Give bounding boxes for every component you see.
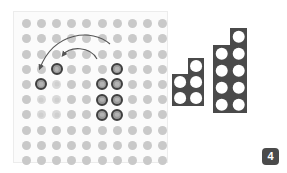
- board-cell-ghost[interactable]: [52, 80, 61, 89]
- board-cell-empty[interactable]: [158, 65, 167, 74]
- board-cell-empty[interactable]: [22, 80, 31, 89]
- board-cell-empty[interactable]: [22, 126, 31, 135]
- tray-shape-cell[interactable]: [172, 90, 188, 106]
- board-cell-empty[interactable]: [37, 50, 46, 59]
- board-cell-empty[interactable]: [128, 126, 137, 135]
- board-cell-empty[interactable]: [67, 95, 76, 104]
- board-cell-empty[interactable]: [98, 34, 107, 43]
- tray-shape-cell[interactable]: [213, 62, 230, 79]
- board-cell-empty[interactable]: [22, 110, 31, 119]
- board-cell-ghost[interactable]: [37, 95, 46, 104]
- board-cell-empty[interactable]: [52, 156, 61, 165]
- board-cell-empty[interactable]: [82, 110, 91, 119]
- board-cell-empty[interactable]: [22, 156, 31, 165]
- board-cell-empty[interactable]: [128, 80, 137, 89]
- board-cell-empty[interactable]: [67, 110, 76, 119]
- board-cell-empty[interactable]: [67, 126, 76, 135]
- board-cell-empty[interactable]: [143, 19, 152, 28]
- board-cell-empty[interactable]: [82, 80, 91, 89]
- tray-shape-cell[interactable]: [172, 74, 188, 90]
- board-cell-empty[interactable]: [52, 126, 61, 135]
- board-cell-filled[interactable]: [35, 78, 47, 90]
- board-cell-empty[interactable]: [128, 65, 137, 74]
- board-cell-empty[interactable]: [22, 65, 31, 74]
- board-cell-empty[interactable]: [158, 34, 167, 43]
- tray-shape-cell[interactable]: [230, 62, 247, 79]
- board-cell-empty[interactable]: [113, 50, 122, 59]
- tray-shape-cell[interactable]: [213, 45, 230, 62]
- board-cell-empty[interactable]: [143, 141, 152, 150]
- board-cell-filled[interactable]: [96, 78, 108, 90]
- board-cell-empty[interactable]: [67, 156, 76, 165]
- board-cell-empty[interactable]: [82, 50, 91, 59]
- board-cell-empty[interactable]: [113, 126, 122, 135]
- board-cell-empty[interactable]: [98, 126, 107, 135]
- board-cell-empty[interactable]: [22, 141, 31, 150]
- board-cell-empty[interactable]: [67, 141, 76, 150]
- board-cell-empty[interactable]: [128, 156, 137, 165]
- tray-shape-cell[interactable]: [188, 90, 204, 106]
- board-cell-empty[interactable]: [113, 141, 122, 150]
- board-cell-empty[interactable]: [143, 156, 152, 165]
- board-cell-empty[interactable]: [158, 110, 167, 119]
- board-cell-empty[interactable]: [22, 95, 31, 104]
- board-cell-empty[interactable]: [128, 95, 137, 104]
- board-cell-empty[interactable]: [143, 34, 152, 43]
- board-cell-empty[interactable]: [113, 156, 122, 165]
- board-cell-empty[interactable]: [37, 65, 46, 74]
- board-cell-empty[interactable]: [98, 50, 107, 59]
- board-cell-empty[interactable]: [52, 34, 61, 43]
- board-cell-empty[interactable]: [98, 19, 107, 28]
- board-cell-filled[interactable]: [51, 63, 63, 75]
- tray-shape-cell[interactable]: [188, 58, 204, 74]
- board-cell-empty[interactable]: [143, 80, 152, 89]
- tray-shape-cell[interactable]: [230, 79, 247, 96]
- board-cell-empty[interactable]: [67, 80, 76, 89]
- puzzle-board-grid[interactable]: [14, 12, 169, 164]
- board-cell-empty[interactable]: [22, 19, 31, 28]
- board-cell-ghost[interactable]: [52, 95, 61, 104]
- board-cell-filled[interactable]: [111, 109, 123, 121]
- board-cell-empty[interactable]: [158, 156, 167, 165]
- tray-shape-cell[interactable]: [230, 28, 247, 45]
- board-cell-empty[interactable]: [143, 95, 152, 104]
- board-cell-empty[interactable]: [98, 65, 107, 74]
- tray-shape-cell[interactable]: [230, 45, 247, 62]
- tray-shape-cell[interactable]: [213, 79, 230, 96]
- board-cell-ghost[interactable]: [37, 110, 46, 119]
- board-cell-empty[interactable]: [37, 141, 46, 150]
- tray-shape-cell[interactable]: [188, 74, 204, 90]
- board-cell-empty[interactable]: [82, 19, 91, 28]
- board-cell-empty[interactable]: [82, 156, 91, 165]
- tray-shape-cell[interactable]: [230, 96, 247, 113]
- board-cell-empty[interactable]: [158, 50, 167, 59]
- board-cell-empty[interactable]: [143, 110, 152, 119]
- board-cell-empty[interactable]: [37, 156, 46, 165]
- board-cell-empty[interactable]: [128, 141, 137, 150]
- board-cell-empty[interactable]: [158, 19, 167, 28]
- board-cell-empty[interactable]: [67, 50, 76, 59]
- board-cell-empty[interactable]: [67, 34, 76, 43]
- board-cell-empty[interactable]: [37, 19, 46, 28]
- board-cell-empty[interactable]: [128, 19, 137, 28]
- board-cell-empty[interactable]: [37, 126, 46, 135]
- board-cell-empty[interactable]: [158, 141, 167, 150]
- board-cell-ghost[interactable]: [52, 110, 61, 119]
- board-cell-empty[interactable]: [158, 126, 167, 135]
- board-cell-empty[interactable]: [143, 50, 152, 59]
- board-cell-empty[interactable]: [22, 34, 31, 43]
- board-cell-filled[interactable]: [111, 94, 123, 106]
- board-cell-empty[interactable]: [113, 19, 122, 28]
- board-cell-empty[interactable]: [82, 95, 91, 104]
- tray-shape-tall-piece[interactable]: [213, 28, 247, 113]
- board-cell-empty[interactable]: [98, 156, 107, 165]
- board-cell-filled[interactable]: [96, 94, 108, 106]
- tray-shape-p-piece[interactable]: [172, 58, 204, 106]
- board-cell-empty[interactable]: [82, 65, 91, 74]
- board-cell-empty[interactable]: [128, 50, 137, 59]
- board-cell-empty[interactable]: [128, 110, 137, 119]
- board-cell-empty[interactable]: [67, 19, 76, 28]
- board-cell-empty[interactable]: [52, 141, 61, 150]
- board-cell-empty[interactable]: [143, 65, 152, 74]
- board-cell-empty[interactable]: [158, 95, 167, 104]
